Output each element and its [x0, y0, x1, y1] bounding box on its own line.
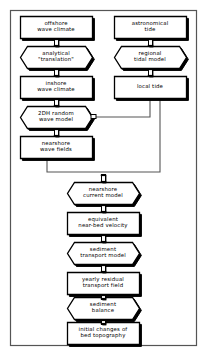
node-inshore-wave-climate — [21, 77, 95, 101]
connector-cap-top — [54, 69, 60, 71]
connector-cap-top — [148, 69, 154, 71]
connector-c-current-to-velocity — [101, 205, 107, 214]
connector-c-regional-to-local — [148, 69, 154, 78]
connector-cap-top — [101, 175, 107, 177]
node-body — [68, 323, 140, 345]
node-2dh-random-wave-model — [21, 107, 95, 131]
connector-c-into-nearshore-current — [101, 175, 107, 184]
node-regional-tidal-model — [115, 47, 189, 71]
connector-cap-bottom — [148, 45, 154, 47]
node-offshore-wave-climate — [21, 17, 95, 41]
connector-cap-bottom — [54, 135, 60, 137]
node-nearshore-wave-fields — [21, 137, 95, 161]
connector-cap-bottom — [54, 75, 60, 77]
node-sediment-transport-model — [68, 243, 142, 267]
connector-cap-bottom — [148, 75, 154, 77]
connector-cap-top — [101, 295, 107, 297]
connector-cap-bottom — [101, 181, 107, 183]
connector-cap-top — [148, 39, 154, 41]
node-equivalent-near-bed-velocity — [68, 213, 142, 237]
node-body — [68, 273, 140, 295]
connector-c-offshore-to-analytical — [54, 39, 60, 48]
node-body — [115, 47, 187, 69]
node-astronomical-tide — [115, 17, 189, 41]
connector-cap-bottom — [101, 271, 107, 273]
node-body — [115, 77, 187, 99]
connector-cap-top — [101, 265, 107, 267]
node-analytical-translation — [21, 47, 95, 71]
connector-cap-top — [54, 129, 60, 131]
node-body — [21, 77, 93, 99]
connector-cap-bottom — [101, 211, 107, 213]
connector-cap-top — [54, 99, 60, 101]
node-yearly-residual-transport-field — [68, 273, 142, 297]
node-body — [21, 17, 93, 39]
route-route-local-tide-to-nearshore-current — [103, 98, 160, 172]
connector-cap-bottom — [54, 45, 60, 47]
connector-c-analytical-to-inshore — [54, 69, 60, 78]
connector-cap-bottom — [54, 105, 60, 107]
connector-c-transport-model-to-field — [101, 265, 107, 274]
connector-cap-top — [101, 235, 107, 237]
connector-cap-top — [54, 39, 60, 41]
node-initial-changes-of-bed-topography — [68, 323, 142, 347]
connector-c-field-to-balance — [101, 295, 107, 301]
node-body — [68, 243, 140, 265]
node-sediment-balance — [68, 298, 142, 322]
node-body — [68, 298, 140, 320]
connector-c-astronomical-to-regional — [148, 39, 154, 48]
node-body — [115, 17, 187, 39]
node-body — [21, 107, 93, 129]
connector-cap-top — [101, 205, 107, 207]
node-body — [21, 47, 93, 69]
node-body — [21, 137, 93, 159]
node-body — [68, 183, 140, 205]
flowchart-graphics — [0, 0, 206, 350]
connector-c-balance-to-initial-changes — [101, 320, 107, 326]
connector-cap-top — [101, 320, 107, 322]
connector-cap-bottom — [101, 241, 107, 243]
connector-cap-bottom — [101, 323, 107, 325]
connector-c-velocity-to-transport-model — [101, 235, 107, 244]
connector-c-inshore-to-2dh — [54, 99, 60, 108]
node-local-tide — [115, 77, 189, 101]
connector-c-2dh-to-nearshore-fields — [54, 129, 60, 138]
node-body — [68, 213, 140, 235]
connector-nub-2dh-right — [91, 115, 96, 119]
connector-cap-bottom — [101, 298, 107, 300]
flowchart-canvas: offshorewave climateanalytical"translati… — [0, 0, 206, 350]
node-nearshore-current-model — [68, 183, 142, 207]
